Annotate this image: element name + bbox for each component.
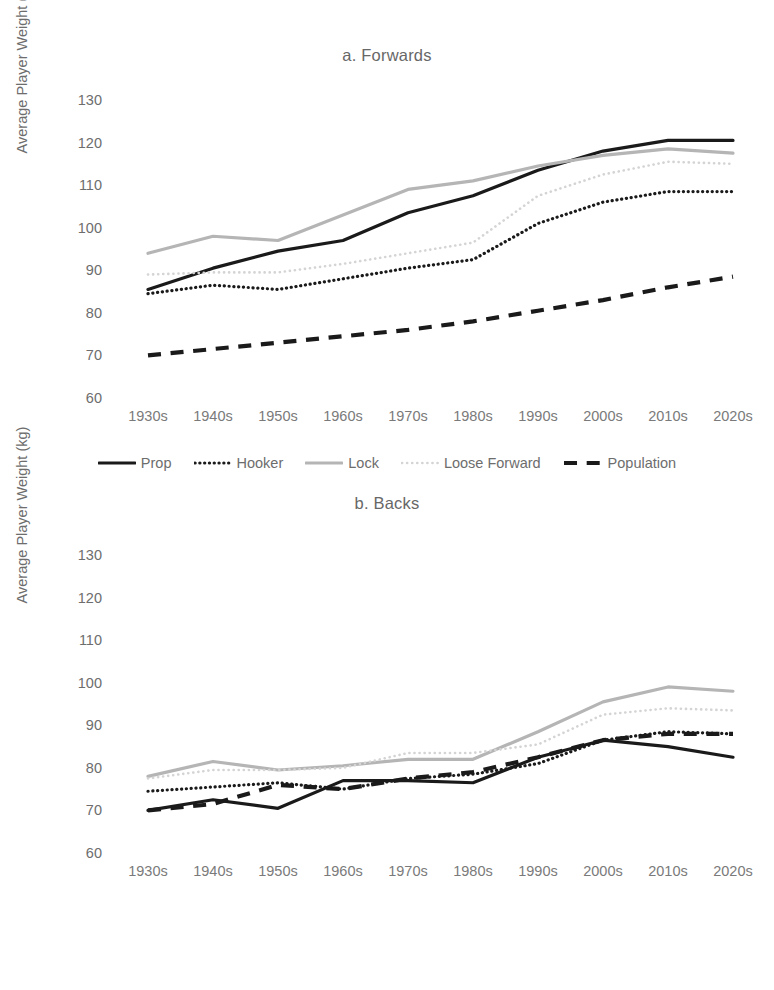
legend-item-loose-forward[interactable]: Loose Forward bbox=[401, 455, 541, 471]
x-tick-1960s: 1960s bbox=[323, 408, 363, 424]
data-series-loose-forward bbox=[148, 162, 733, 275]
data-series-centre bbox=[148, 687, 733, 776]
x-tick-1990s: 1990s bbox=[518, 408, 558, 424]
legend-item-population[interactable]: Population bbox=[563, 455, 677, 471]
legend-item-hooker[interactable]: Hooker bbox=[194, 455, 284, 471]
x-axis-ticks-backs: 1930s1940s1950s1960s1970s1980s1990s2000s… bbox=[0, 863, 774, 887]
x-tick-2020s: 2020s bbox=[713, 863, 753, 879]
x-tick-1940s: 1940s bbox=[193, 408, 233, 424]
series-canvas-backs bbox=[0, 535, 774, 865]
x-tick-1960s: 1960s bbox=[323, 863, 363, 879]
x-tick-2000s: 2000s bbox=[583, 863, 623, 879]
x-tick-2010s: 2010s bbox=[648, 863, 688, 879]
x-tick-2020s: 2020s bbox=[713, 408, 753, 424]
x-tick-1980s: 1980s bbox=[453, 408, 493, 424]
legend-forwards: PropHookerLockLoose ForwardPopulation bbox=[0, 455, 774, 471]
legend-label: Lock bbox=[348, 455, 379, 471]
x-tick-1990s: 1990s bbox=[518, 863, 558, 879]
plot-area-forwards: Average Player Weight (kg) 1301201101009… bbox=[0, 80, 774, 410]
chart-title-forwards: a. Forwards bbox=[0, 46, 774, 65]
x-tick-1940s: 1940s bbox=[193, 863, 233, 879]
x-tick-1970s: 1970s bbox=[388, 408, 428, 424]
data-series-population bbox=[148, 277, 733, 356]
series-canvas-forwards bbox=[0, 80, 774, 410]
chart-panel-backs: b. Backs Average Player Weight (kg) 1301… bbox=[0, 487, 774, 990]
legend-key-prop-icon bbox=[98, 456, 136, 470]
x-tick-1950s: 1950s bbox=[258, 863, 298, 879]
x-tick-2010s: 2010s bbox=[648, 408, 688, 424]
legend-label: Population bbox=[608, 455, 677, 471]
x-tick-1980s: 1980s bbox=[453, 863, 493, 879]
plot-area-backs: Average Player Weight (kg) 1301201101009… bbox=[0, 535, 774, 865]
legend-key-lock-icon bbox=[305, 456, 343, 470]
x-axis-ticks-forwards: 1930s1940s1950s1960s1970s1980s1990s2000s… bbox=[0, 408, 774, 432]
data-series-prop bbox=[148, 140, 733, 289]
data-series-hooker bbox=[148, 192, 733, 294]
x-tick-1950s: 1950s bbox=[258, 408, 298, 424]
figure-page: a. Forwards Average Player Weight (kg) 1… bbox=[0, 0, 774, 990]
legend-label: Hooker bbox=[237, 455, 284, 471]
legend-item-prop[interactable]: Prop bbox=[98, 455, 172, 471]
legend-key-population-icon bbox=[563, 456, 603, 470]
chart-panel-forwards: a. Forwards Average Player Weight (kg) 1… bbox=[0, 0, 774, 495]
x-tick-1930s: 1930s bbox=[128, 408, 168, 424]
legend-key-loose-forward-icon bbox=[401, 456, 439, 470]
data-series-lock bbox=[148, 149, 733, 253]
chart-title-backs: b. Backs bbox=[0, 494, 774, 513]
legend-item-lock[interactable]: Lock bbox=[305, 455, 379, 471]
x-tick-1970s: 1970s bbox=[388, 863, 428, 879]
legend-key-hooker-icon bbox=[194, 456, 232, 470]
legend-label: Prop bbox=[141, 455, 172, 471]
x-tick-1930s: 1930s bbox=[128, 863, 168, 879]
legend-label: Loose Forward bbox=[444, 455, 541, 471]
x-tick-2000s: 2000s bbox=[583, 408, 623, 424]
